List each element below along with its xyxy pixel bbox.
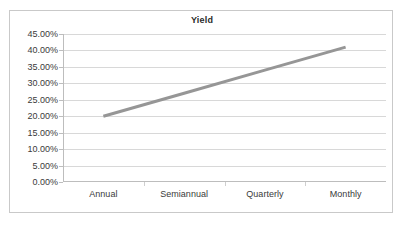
y-axis-tick-label: 45.00%: [10, 30, 58, 39]
y-axis-labels: 0.00%5.00%10.00%15.00%20.00%25.00%30.00%…: [10, 34, 58, 182]
y-axis-tick-label: 20.00%: [10, 112, 58, 121]
x-axis-labels: AnnualSemiannualQuarterlyMonthly: [63, 189, 386, 203]
y-axis-tick-label: 15.00%: [10, 128, 58, 137]
y-axis-tick: [59, 182, 63, 183]
series-line: [103, 47, 345, 116]
y-axis-tick-label: 35.00%: [10, 62, 58, 71]
y-axis-tick-label: 0.00%: [10, 178, 58, 187]
x-axis-tick-label: Annual: [89, 189, 117, 199]
x-axis-tick: [225, 182, 226, 186]
x-axis-tick-label: Semiannual: [160, 189, 208, 199]
chart-title: Yield: [10, 15, 394, 25]
x-axis-tick: [305, 182, 306, 186]
x-axis-tick-label: Monthly: [330, 189, 362, 199]
x-axis-tick: [144, 182, 145, 186]
y-axis-tick-label: 5.00%: [10, 161, 58, 170]
chart-container: Yield 0.00%5.00%10.00%15.00%20.00%25.00%…: [9, 10, 393, 213]
y-axis-tick-label: 30.00%: [10, 79, 58, 88]
y-axis-tick-label: 10.00%: [10, 145, 58, 154]
series-line-yield: [63, 34, 386, 182]
plot-area: [63, 34, 386, 182]
y-axis-tick-label: 25.00%: [10, 95, 58, 104]
x-axis-tick-label: Quarterly: [246, 189, 283, 199]
y-axis-tick-label: 40.00%: [10, 46, 58, 55]
